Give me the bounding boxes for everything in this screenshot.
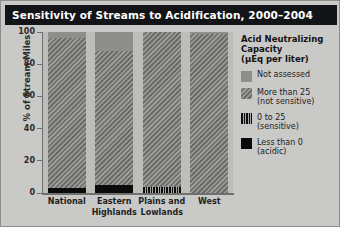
bar-group: [43, 32, 233, 193]
legend-item[interactable]: 0 to 25(sensitive): [241, 113, 339, 132]
bar-segment-na: [190, 32, 228, 34]
bar-segment-more: [95, 51, 133, 185]
diagonal-hatch-swatch: [241, 88, 252, 99]
vertical-stripe-swatch: [241, 113, 252, 124]
y-axis-tick-label: 0: [0, 188, 35, 197]
legend-item-label-line: 0 to 25: [257, 113, 299, 123]
bar-segment-more: [48, 38, 86, 188]
x-axis-label-line: West: [182, 197, 238, 208]
y-axis-tick: [37, 160, 42, 161]
page-title: Sensitivity of Streams to Acidification,…: [5, 9, 313, 21]
legend-item[interactable]: Not assessed: [241, 70, 339, 82]
bar-plains-and-lowlands[interactable]: [143, 32, 181, 193]
legend-heading-line-3: (µEq per liter): [241, 54, 339, 64]
legend-heading-line-2: Capacity: [241, 44, 339, 54]
x-axis-line: [42, 193, 234, 195]
legend-item-label: Not assessed: [257, 70, 310, 80]
legend-item-label: More than 25(not sensitive): [257, 88, 314, 107]
bar-segment-more: [190, 34, 228, 193]
bar-west[interactable]: [190, 32, 228, 193]
legend-item-label: Less than 0(acidic): [257, 138, 303, 157]
legend-item[interactable]: More than 25(not sensitive): [241, 88, 339, 107]
legend-item-label: 0 to 25(sensitive): [257, 113, 299, 132]
y-axis-tick: [37, 32, 42, 33]
legend-item[interactable]: Less than 0(acidic): [241, 138, 339, 157]
chart-figure: Sensitivity of Streams to Acidification,…: [0, 0, 340, 227]
bar-segment-s0to25: [143, 187, 181, 193]
bar-eastern-highlands[interactable]: [95, 32, 133, 193]
bar-segment-less: [48, 188, 86, 193]
legend-item-label-line: (sensitive): [257, 122, 299, 132]
y-axis-tick: [37, 193, 42, 194]
bar-segment-more: [143, 32, 181, 187]
chart-title-bar: Sensitivity of Streams to Acidification,…: [5, 5, 337, 25]
legend-item-label-line: Less than 0: [257, 138, 303, 148]
legend: Acid Neutralizing Capacity (µEq per lite…: [241, 34, 339, 157]
legend-item-label-line: Not assessed: [257, 70, 310, 80]
solid-black-swatch: [241, 138, 252, 149]
y-axis-tick: [37, 96, 42, 97]
legend-items: Not assessedMore than 25(not sensitive)0…: [241, 70, 339, 157]
legend-item-label-line: (not sensitive): [257, 97, 314, 107]
y-axis-tick-label: 20: [0, 156, 35, 165]
bar-segment-less: [95, 185, 133, 193]
legend-heading-line-1: Acid Neutralizing: [241, 34, 339, 44]
x-axis-label-line: Lowlands: [134, 208, 190, 219]
legend-item-label-line: More than 25: [257, 88, 314, 98]
legend-item-label-line: (acidic): [257, 147, 303, 157]
y-axis-tick: [37, 128, 42, 129]
bar-segment-na: [48, 32, 86, 38]
y-axis-tick: [37, 64, 42, 65]
solid-gray-swatch: [241, 71, 252, 82]
bar-segment-na: [95, 32, 133, 51]
bar-national[interactable]: [48, 32, 86, 193]
x-axis-label: West: [182, 197, 238, 208]
y-axis-title: % of Stream Miles: [22, 18, 32, 138]
